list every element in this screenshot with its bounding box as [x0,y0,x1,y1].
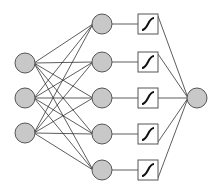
hidden-node [92,160,112,180]
activation-box [138,88,158,108]
activation-box [138,52,158,72]
hidden-node [92,14,112,34]
edge-input-hidden [34,62,93,63]
edge-input-hidden [34,24,93,98]
edge-input-hidden [34,63,93,134]
edge-activation-output [158,98,188,178]
activation-box [138,160,158,180]
hidden-node [92,52,112,72]
network-nodes [15,14,207,180]
input-node [15,88,35,108]
edge-activation-output [158,54,188,98]
activation-box [138,124,158,144]
activation-box [138,14,158,34]
input-node [15,53,35,73]
edge-input-hidden [34,133,93,134]
edge-activation-output [158,98,188,142]
input-node [15,123,35,143]
edge-activation-output [158,16,188,98]
hidden-node [92,124,112,144]
edge-input-hidden [34,133,93,170]
hidden-node [92,88,112,108]
neural-network-diagram [0,0,219,190]
edge-input-hidden [34,24,93,63]
edge-input-hidden [34,62,93,133]
output-node [187,88,207,108]
